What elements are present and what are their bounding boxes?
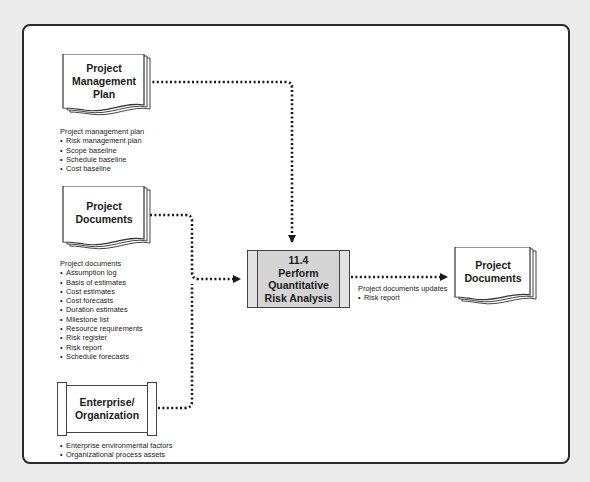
list-item: Basis of estimates: [60, 278, 143, 287]
scroll-right-edge: [147, 382, 157, 436]
list-item: Cost baseline: [60, 164, 144, 173]
list-item: Cost estimates: [60, 287, 143, 296]
caption-heading: Project management plan: [60, 127, 144, 136]
process-box: 11.4 Perform Quantitative Risk Analysis: [247, 250, 350, 308]
caption-enterprise-organization: Enterprise environmental factors Organiz…: [60, 441, 172, 460]
list-item: Milestone list: [60, 315, 143, 324]
list-item: Scope baseline: [60, 146, 144, 155]
process-right-bar: [339, 251, 349, 307]
output-title: Project Documents: [464, 259, 521, 285]
list-item: Cost forecasts: [60, 296, 143, 305]
input-project-documents: Project Documents: [62, 186, 152, 254]
caption-output-flow: Project documents updates Risk report: [358, 284, 448, 303]
list-item: Risk register: [60, 333, 143, 342]
list-item: Resource requirements: [60, 324, 143, 333]
output-project-documents: Project Documents: [454, 247, 538, 309]
list-item: Schedule forecasts: [60, 352, 143, 361]
input-title: Project Management Plan: [72, 62, 136, 101]
list-item: Assumption log: [60, 268, 143, 277]
list-item: Organizational process assets: [60, 450, 172, 459]
list-item: Risk report: [60, 343, 143, 352]
input-title: Enterprise/ Organization: [75, 396, 139, 422]
input-title: Project Documents: [75, 200, 132, 226]
caption-project-management-plan: Project management plan Risk management …: [60, 127, 144, 173]
list-item: Duration estimates: [60, 305, 143, 314]
input-project-management-plan: Project Management Plan: [62, 54, 152, 120]
process-title: 11.4 Perform Quantitative Risk Analysis: [265, 254, 333, 304]
list-item: Risk report: [358, 293, 448, 302]
list-item: Risk management plan: [60, 136, 144, 145]
process-left-bar: [248, 251, 258, 307]
list-item: Schedule baseline: [60, 155, 144, 164]
caption-heading: Project documents: [60, 259, 143, 268]
scroll-left-edge: [57, 382, 67, 436]
caption-project-documents: Project documents Assumption log Basis o…: [60, 259, 143, 361]
caption-heading: Project documents updates: [358, 284, 448, 293]
input-enterprise-organization: Enterprise/ Organization: [57, 385, 157, 433]
list-item: Enterprise environmental factors: [60, 441, 172, 450]
